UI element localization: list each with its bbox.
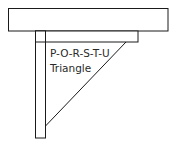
label-line-2: Triangle — [50, 61, 110, 76]
post — [36, 31, 46, 138]
diagram-canvas: P-O-R-S-T-U Triangle — [0, 0, 179, 149]
label-line-1: P-O-R-S-T-U — [50, 46, 110, 61]
inner-bar — [36, 31, 139, 42]
top-bar — [9, 9, 169, 32]
triangle-label: P-O-R-S-T-U Triangle — [50, 46, 110, 76]
